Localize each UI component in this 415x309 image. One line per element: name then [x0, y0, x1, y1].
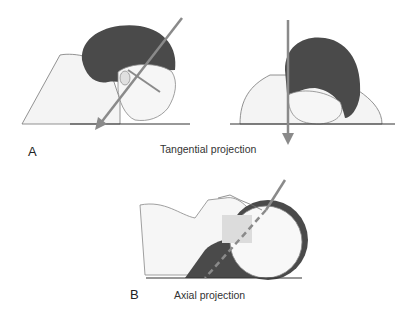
panel-a-letter: A: [28, 144, 37, 159]
panel-b-axial-view: [140, 180, 308, 280]
panel-b-caption: Axial projection: [174, 289, 245, 301]
panel-b-letter: B: [130, 287, 139, 302]
panel-a-lateral-view: [22, 18, 190, 130]
panel-a-frontal-view: [230, 20, 395, 145]
figure: A Tangential projection B Axial projecti…: [0, 0, 415, 309]
panel-a-caption: Tangential projection: [160, 143, 256, 155]
